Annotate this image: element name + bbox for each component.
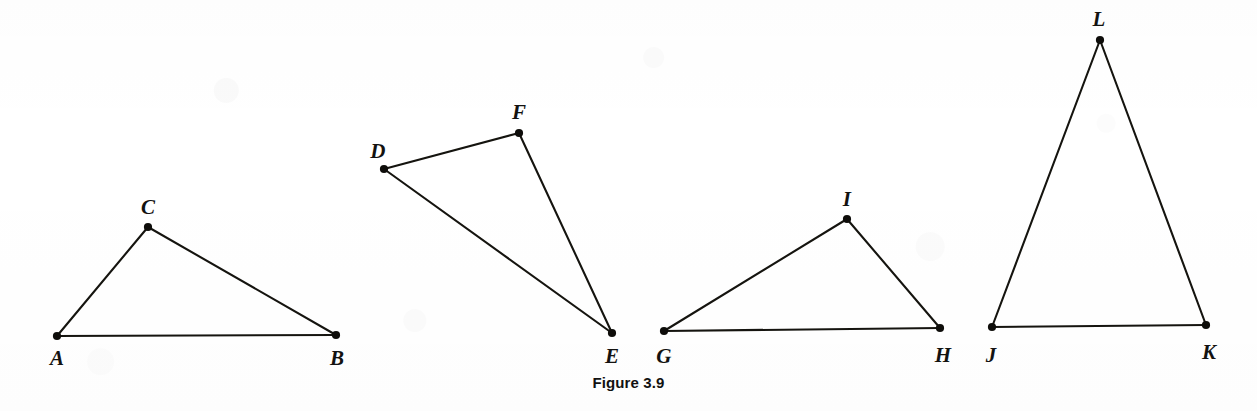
vertex-dot-k xyxy=(1202,321,1210,329)
triangle-abc xyxy=(57,227,336,336)
vertex-label-g: G xyxy=(656,346,671,367)
vertex-label-j: J xyxy=(986,345,997,366)
vertex-label-k: K xyxy=(1202,342,1216,363)
segment-gi xyxy=(664,219,847,331)
vertex-label-i: I xyxy=(843,189,851,210)
vertex-dot-g xyxy=(660,327,668,335)
vertex-label-a: A xyxy=(50,348,64,369)
triangle-ghi xyxy=(664,219,940,331)
segment-cb xyxy=(148,227,336,335)
vertex-dot-a xyxy=(53,332,61,340)
vertex-label-d: D xyxy=(370,141,385,162)
vertex-dot-e xyxy=(608,329,616,337)
figure-container: ABCDEFGHIJKL Figure 3.9 xyxy=(0,0,1257,411)
triangles-canvas xyxy=(0,0,1257,411)
vertex-label-l: L xyxy=(1092,9,1105,30)
vertex-dot-h xyxy=(936,324,944,332)
segment-de xyxy=(384,169,612,333)
vertex-dots-layer xyxy=(53,36,1210,340)
segment-ab xyxy=(57,335,336,336)
segment-lk xyxy=(1100,40,1206,325)
segment-ac xyxy=(57,227,148,336)
vertex-dot-c xyxy=(144,223,152,231)
vertex-label-c: C xyxy=(141,197,155,218)
vertex-dot-b xyxy=(332,331,340,339)
vertex-dot-i xyxy=(843,215,851,223)
vertex-label-b: B xyxy=(330,348,344,369)
triangle-def xyxy=(384,133,612,333)
segment-fe xyxy=(519,133,612,333)
vertex-dot-f xyxy=(515,129,523,137)
vertex-label-f: F xyxy=(512,102,526,123)
segment-jk xyxy=(992,325,1206,327)
vertex-label-h: H xyxy=(935,345,952,366)
segment-jl xyxy=(992,40,1100,327)
vertex-dot-l xyxy=(1096,36,1104,44)
segment-gh xyxy=(664,328,940,331)
triangle-jkl xyxy=(992,40,1206,327)
vertex-label-e: E xyxy=(605,346,619,367)
segment-ih xyxy=(847,219,940,328)
segment-df xyxy=(384,133,519,169)
vertex-dot-j xyxy=(988,323,996,331)
vertex-dot-d xyxy=(380,165,388,173)
figure-caption: Figure 3.9 xyxy=(0,374,1257,391)
shapes-layer xyxy=(57,40,1206,336)
